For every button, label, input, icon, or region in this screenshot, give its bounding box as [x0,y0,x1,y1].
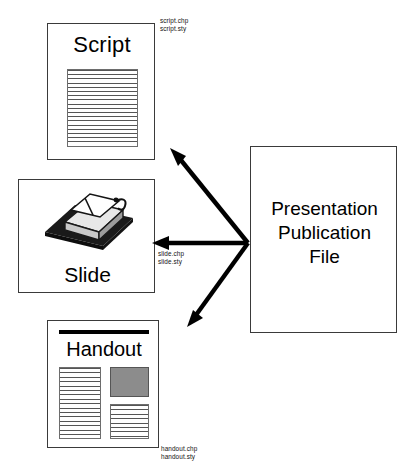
publication-label-line-2: Publication [251,221,398,245]
node-handout-label: Handout [48,337,160,361]
slide-chp-label: slide.chp [158,250,184,258]
node-publication-label: Presentation Publication File [251,197,398,269]
node-handout[interactable]: Handout [47,320,159,448]
script-sty-label: script.sty [160,25,188,33]
node-script[interactable]: Script [47,23,155,160]
diagram-canvas: Script script.chp script.sty [0,0,416,473]
cropped-header-strip [0,0,416,8]
handout-left-column-icon [59,367,101,439]
slide-sty-label: slide.sty [158,258,184,266]
node-presentation-publication-file[interactable]: Presentation Publication File [250,146,397,333]
handout-top-rule [59,330,149,334]
script-file-labels: script.chp script.sty [160,17,188,33]
handout-file-labels: handout.chp handout.sty [161,445,197,461]
slide-file-labels: slide.chp slide.sty [158,250,184,266]
node-slide-label: Slide [19,262,156,287]
publication-label-line-3: File [251,245,398,269]
lined-text-block-icon [67,69,138,147]
node-script-label: Script [48,32,156,58]
handout-sty-label: handout.sty [161,453,197,461]
overhead-projector-icon [41,188,137,250]
arrow-to-slide [152,236,248,250]
handout-image-placeholder-icon [110,367,149,397]
handout-right-column-icon [110,404,149,439]
script-chp-label: script.chp [160,17,188,25]
node-slide[interactable]: Slide [18,179,155,293]
handout-chp-label: handout.chp [161,445,197,453]
publication-label-line-1: Presentation [251,197,398,221]
arrow-to-script [170,148,248,243]
arrow-to-handout [187,243,248,327]
